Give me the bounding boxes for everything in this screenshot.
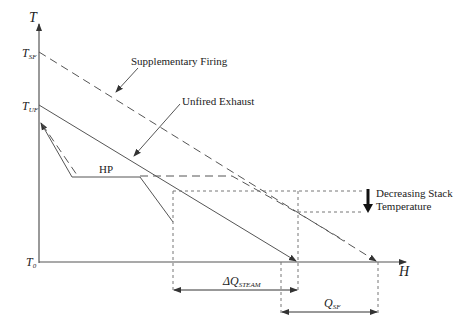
supplementary-firing-label: Supplementary Firing <box>131 55 228 67</box>
down-arrow-icon <box>363 189 373 213</box>
delta-q-steam-label: ΔQSTEAM <box>222 274 262 289</box>
x-axis-label: H <box>398 264 410 279</box>
stack-label-line1: Decreasing Stack <box>376 187 453 199</box>
q-sf-label: QSF <box>324 296 341 311</box>
steam-profile-fired-evap <box>42 124 77 175</box>
y-axis-label: T <box>29 10 38 25</box>
tq-diagram: T H TSF TUF T0 Supplementary Firing Unfi… <box>0 0 474 330</box>
stack-temperature-guides <box>173 191 378 314</box>
hp-label: HP <box>99 163 113 175</box>
unfired-exhaust-line <box>39 105 296 261</box>
tick-t-0: T0 <box>26 255 37 270</box>
tick-t-sf: TSF <box>22 46 37 61</box>
steam-profile-fired <box>140 176 345 241</box>
unfired-exhaust-label: Unfired Exhaust <box>182 95 254 107</box>
unfired-leader-arrow <box>134 104 180 156</box>
tick-t-uf: TUF <box>22 99 39 114</box>
supplementary-leader-arrow <box>116 68 138 92</box>
stack-label-line2: Temperature <box>376 200 432 212</box>
